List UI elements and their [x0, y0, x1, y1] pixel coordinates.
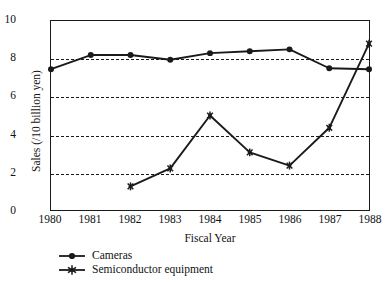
line-chart-figure: 10 8 6 4 2 0 1980 1981 1982 1983 1984 19… [0, 0, 390, 283]
x-axis-title: Fiscal Year [50, 232, 370, 244]
data-point-marker [326, 124, 332, 132]
legend-item-cameras: Cameras [57, 249, 213, 263]
legend-label: Cameras [92, 250, 132, 262]
y-tick-label: 8 [0, 52, 16, 64]
y-tick-label: 2 [0, 167, 16, 179]
data-point-marker [366, 66, 372, 72]
chart-legend: Cameras Semiconductor equipment [57, 249, 213, 277]
y-tick-label: 10 [0, 14, 16, 26]
data-point-marker [287, 46, 293, 52]
data-point-marker [128, 52, 134, 58]
series-cameras [48, 46, 372, 72]
y-tick-label: 6 [0, 91, 16, 103]
data-point-marker [247, 48, 253, 54]
data-point-marker [88, 52, 94, 58]
legend-marker-filled-circle-icon [57, 249, 87, 263]
data-point-marker [48, 66, 54, 72]
data-point-marker [207, 112, 213, 120]
y-axis-title: Sales (/10 billion yen) [30, 31, 42, 211]
plot-area [50, 20, 370, 211]
x-tick-label: 1988 [340, 214, 390, 226]
series-line [131, 44, 370, 187]
legend-marker-star-icon [57, 263, 87, 277]
legend-item-semiconductor-equipment: Semiconductor equipment [57, 263, 213, 277]
chart-series-svg [51, 21, 369, 210]
data-point-marker [167, 57, 173, 63]
data-point-marker [207, 50, 213, 56]
y-tick-label: 0 [0, 205, 16, 217]
series-semiconductor-equipment [128, 40, 372, 191]
y-tick-label: 4 [0, 129, 16, 141]
legend-label: Semiconductor equipment [92, 264, 213, 276]
data-point-marker [366, 40, 372, 48]
data-point-marker [326, 65, 332, 71]
